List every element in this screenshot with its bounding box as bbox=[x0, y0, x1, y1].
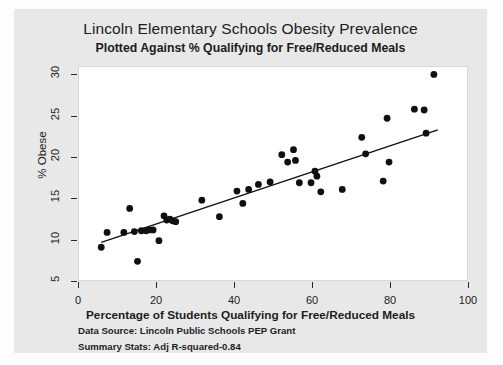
y-tick-label: 5 bbox=[49, 268, 61, 290]
x-tick-mark bbox=[234, 282, 235, 288]
footnote-summary-stats: Summary Stats: Adj R-squared-0.84 bbox=[78, 341, 295, 352]
x-tick-label: 40 bbox=[219, 294, 249, 306]
y-tick-label: 30 bbox=[49, 61, 61, 83]
data-point bbox=[421, 107, 428, 114]
y-tick-label: 20 bbox=[49, 144, 61, 166]
data-point bbox=[172, 218, 179, 225]
y-tick-mark bbox=[71, 74, 77, 75]
x-axis-title: Percentage of Students Qualifying for Fr… bbox=[14, 308, 487, 322]
x-tick-mark bbox=[78, 282, 79, 288]
data-point bbox=[358, 134, 365, 141]
x-tick-mark bbox=[390, 282, 391, 288]
y-tick-mark bbox=[71, 157, 77, 158]
data-point bbox=[423, 130, 430, 137]
y-tick-label: 25 bbox=[49, 103, 61, 125]
data-point bbox=[380, 178, 387, 185]
footnotes: Data Source: Lincoln Public Schools PEP … bbox=[78, 325, 295, 357]
y-tick-mark bbox=[71, 198, 77, 199]
regression-line bbox=[101, 130, 438, 242]
y-tick-mark bbox=[71, 116, 77, 117]
footnote-data-source: Data Source: Lincoln Public Schools PEP … bbox=[78, 325, 295, 336]
y-axis-title: % Obese bbox=[36, 115, 48, 195]
data-point bbox=[284, 159, 291, 166]
data-point bbox=[198, 197, 205, 204]
x-tick-label: 0 bbox=[63, 294, 93, 306]
data-point bbox=[278, 151, 285, 158]
chart-figure: Lincoln Elementary Schools Obesity Preva… bbox=[14, 9, 487, 353]
x-tick-label: 80 bbox=[375, 294, 405, 306]
data-point bbox=[362, 150, 369, 157]
data-point bbox=[98, 244, 105, 251]
data-point bbox=[431, 71, 438, 78]
data-point bbox=[339, 186, 346, 193]
data-point bbox=[386, 159, 393, 166]
data-point bbox=[255, 181, 262, 188]
data-point bbox=[131, 228, 138, 235]
scatter-plot-svg bbox=[79, 67, 469, 282]
data-point bbox=[296, 179, 303, 186]
x-tick-mark bbox=[312, 282, 313, 288]
data-point bbox=[150, 227, 157, 234]
data-point bbox=[156, 237, 163, 244]
title-block: Lincoln Elementary Schools Obesity Preva… bbox=[14, 20, 487, 55]
data-point bbox=[126, 205, 133, 212]
x-tick-mark bbox=[156, 282, 157, 288]
data-point bbox=[104, 229, 111, 236]
data-point bbox=[234, 188, 241, 195]
x-tick-mark bbox=[468, 282, 469, 288]
data-point bbox=[314, 173, 321, 180]
chart-subtitle: Plotted Against % Qualifying for Free/Re… bbox=[14, 41, 487, 55]
x-tick-label: 100 bbox=[453, 294, 483, 306]
x-tick-label: 20 bbox=[141, 294, 171, 306]
data-point bbox=[308, 179, 315, 186]
data-point bbox=[292, 157, 299, 164]
data-point bbox=[120, 229, 127, 236]
y-tick-label: 10 bbox=[49, 227, 61, 249]
data-point bbox=[216, 213, 223, 220]
scanned-page: Lincoln Elementary Schools Obesity Preva… bbox=[0, 0, 503, 365]
data-point bbox=[239, 200, 246, 207]
data-point bbox=[134, 258, 141, 265]
y-tick-mark bbox=[71, 281, 77, 282]
data-point bbox=[245, 186, 252, 193]
data-point bbox=[290, 146, 297, 153]
plot-area bbox=[78, 66, 468, 281]
x-tick-label: 60 bbox=[297, 294, 327, 306]
y-tick-mark bbox=[71, 240, 77, 241]
data-point bbox=[267, 179, 274, 186]
data-point bbox=[411, 106, 418, 113]
page-title: Lincoln Elementary Schools Obesity Preva… bbox=[14, 20, 487, 38]
data-point bbox=[384, 115, 391, 122]
data-point bbox=[317, 188, 324, 195]
y-tick-label: 15 bbox=[49, 185, 61, 207]
